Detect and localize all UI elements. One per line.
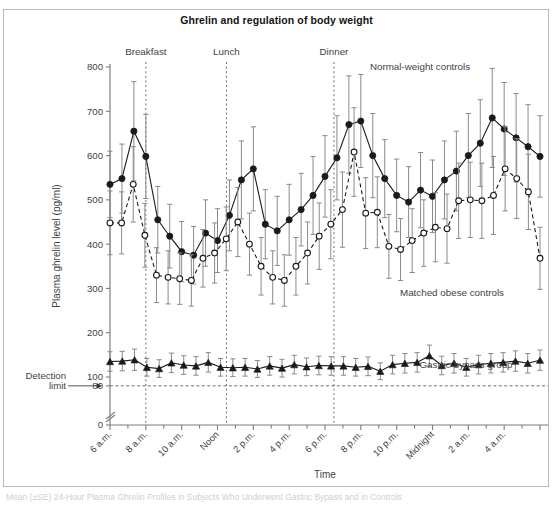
series-label-normal-weight: Normal-weight controls bbox=[370, 61, 470, 72]
data-point bbox=[394, 192, 400, 198]
data-point bbox=[406, 199, 412, 205]
series-0 bbox=[107, 68, 543, 284]
x-tick-label: 10 a.m. bbox=[156, 429, 185, 458]
meal-label: Lunch bbox=[213, 46, 240, 57]
y-tick-label: 400 bbox=[87, 239, 103, 250]
data-point bbox=[238, 177, 244, 183]
data-point bbox=[293, 263, 299, 269]
y-tick-label: 100 bbox=[87, 371, 103, 382]
data-point bbox=[167, 233, 173, 239]
data-point bbox=[477, 140, 483, 146]
data-point bbox=[316, 233, 322, 239]
y-axis-title: Plasma ghrelin level (pg/ml) bbox=[51, 184, 62, 307]
detection-limit-label: Detection bbox=[25, 370, 66, 381]
data-point bbox=[514, 176, 520, 182]
detection-limit-label: limit bbox=[49, 380, 66, 391]
data-point bbox=[491, 193, 497, 199]
y-tick-label: 200 bbox=[87, 327, 103, 338]
data-point bbox=[142, 232, 148, 238]
data-point bbox=[386, 243, 392, 249]
data-point bbox=[165, 274, 171, 280]
data-point bbox=[334, 155, 340, 161]
data-point bbox=[346, 121, 352, 127]
x-tick-label: 2 a.m. bbox=[446, 429, 471, 454]
y-tick-label: 700 bbox=[87, 106, 103, 117]
data-point bbox=[467, 197, 473, 203]
data-point bbox=[358, 118, 364, 124]
data-point bbox=[456, 198, 462, 204]
x-tick-label: 10 p.m. bbox=[371, 429, 400, 458]
y-tick-label: 800 bbox=[87, 61, 103, 72]
y-tick-label: 600 bbox=[87, 150, 103, 161]
data-point bbox=[537, 153, 543, 159]
data-point bbox=[119, 176, 125, 182]
data-point bbox=[247, 241, 253, 247]
x-axis-title: Time bbox=[314, 469, 336, 480]
data-point bbox=[513, 135, 519, 141]
data-point bbox=[226, 212, 232, 218]
data-point bbox=[502, 166, 508, 172]
data-point bbox=[119, 220, 125, 226]
x-tick-label: Noon bbox=[198, 429, 221, 452]
data-point bbox=[177, 276, 183, 282]
data-point bbox=[107, 181, 113, 187]
data-point bbox=[223, 236, 229, 242]
x-tick-label: 2 p.m. bbox=[231, 429, 256, 454]
data-point bbox=[363, 210, 369, 216]
series-label-bypass: Gastric-bypass group bbox=[419, 359, 513, 370]
data-point bbox=[188, 278, 194, 284]
meal-label: Dinner bbox=[320, 46, 350, 57]
data-point bbox=[444, 226, 450, 232]
x-tick-label: Midnight bbox=[404, 429, 436, 461]
x-tick-label: 4 p.m. bbox=[267, 429, 292, 454]
data-point bbox=[250, 166, 256, 172]
data-point bbox=[374, 209, 380, 215]
data-point bbox=[270, 274, 276, 280]
data-point bbox=[274, 228, 280, 234]
x-tick-label: 6 p.m. bbox=[303, 429, 328, 454]
data-point bbox=[322, 173, 328, 179]
data-point bbox=[417, 187, 423, 193]
data-point bbox=[328, 221, 334, 227]
x-tick-label: 4 a.m. bbox=[482, 429, 507, 454]
data-point bbox=[200, 255, 206, 261]
data-point bbox=[479, 198, 485, 204]
data-point bbox=[235, 219, 241, 225]
data-point bbox=[465, 152, 471, 158]
data-point bbox=[429, 193, 435, 199]
x-tick-label: 6 a.m. bbox=[88, 429, 113, 454]
ghrelin-chart: 080100200300400500600700800Plasma ghreli… bbox=[0, 0, 553, 505]
data-point bbox=[155, 217, 161, 223]
data-point bbox=[258, 263, 264, 269]
y-tick-label: 300 bbox=[87, 283, 103, 294]
data-point bbox=[305, 250, 311, 256]
data-point bbox=[143, 153, 149, 159]
data-point bbox=[154, 272, 160, 278]
data-point bbox=[212, 250, 218, 256]
data-point bbox=[131, 128, 137, 134]
data-point bbox=[310, 192, 316, 198]
data-point bbox=[351, 149, 357, 155]
figure-caption: Mean (±SE) 24-Hour Plasma Ghrelin Profil… bbox=[6, 492, 546, 504]
series-label-obese: Matched obese controls bbox=[400, 287, 504, 298]
data-point bbox=[377, 368, 384, 374]
data-point bbox=[536, 357, 543, 363]
data-point bbox=[130, 181, 136, 187]
data-point bbox=[489, 115, 495, 121]
data-point bbox=[409, 238, 415, 244]
data-point bbox=[205, 359, 212, 365]
data-point bbox=[340, 207, 346, 213]
data-point bbox=[421, 230, 427, 236]
data-point bbox=[107, 220, 113, 226]
data-point bbox=[281, 278, 287, 284]
y-tick-label: 0 bbox=[98, 419, 103, 430]
data-point bbox=[426, 353, 433, 359]
x-tick-label: 8 a.m. bbox=[124, 429, 149, 454]
data-point bbox=[262, 221, 268, 227]
data-point bbox=[370, 152, 376, 158]
figure-panel: Ghrelin and regulation of body weight 08… bbox=[0, 0, 553, 505]
data-point bbox=[214, 238, 220, 244]
data-point bbox=[537, 255, 543, 261]
x-tick-label: 8 p.m. bbox=[339, 429, 364, 454]
y-tick-label: 500 bbox=[87, 194, 103, 205]
